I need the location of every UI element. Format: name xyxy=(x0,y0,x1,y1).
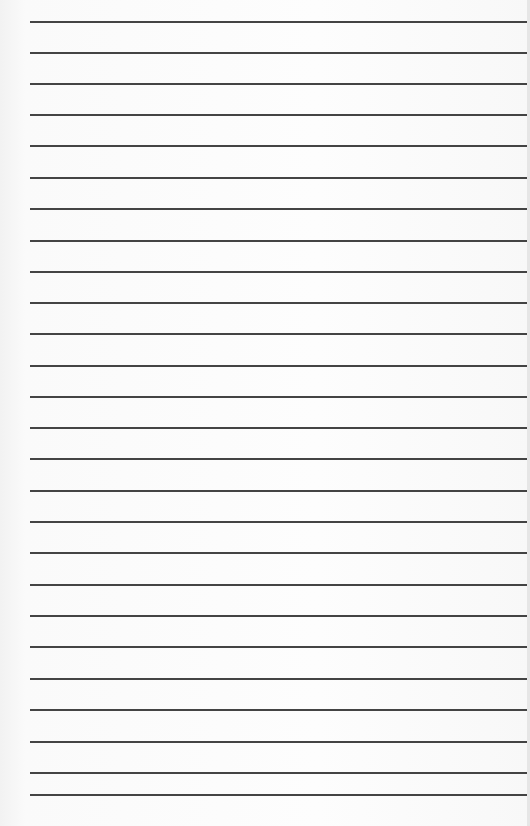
lined-paper-page xyxy=(0,0,530,826)
ruled-line xyxy=(30,396,527,398)
ruled-line xyxy=(30,678,527,680)
ruled-line xyxy=(30,240,527,242)
ruled-line xyxy=(30,52,527,54)
ruled-line xyxy=(30,365,527,367)
ruled-line xyxy=(30,427,527,429)
ruled-line xyxy=(30,794,527,796)
ruled-line xyxy=(30,145,527,147)
ruled-line xyxy=(30,490,527,492)
ruled-line xyxy=(30,333,527,335)
ruled-line xyxy=(30,458,527,460)
ruled-line xyxy=(30,177,527,179)
ruled-line xyxy=(30,709,527,711)
ruled-line xyxy=(30,741,527,743)
ruled-line xyxy=(30,646,527,648)
ruled-line xyxy=(30,83,527,85)
ruled-line xyxy=(30,615,527,617)
ruled-line xyxy=(30,208,527,210)
ruled-line xyxy=(30,114,527,116)
ruled-line xyxy=(30,552,527,554)
ruled-line xyxy=(30,21,527,23)
ruled-line xyxy=(30,302,527,304)
ruled-line xyxy=(30,772,527,774)
ruled-line xyxy=(30,584,527,586)
ruled-line xyxy=(30,521,527,523)
ruled-line xyxy=(30,271,527,273)
